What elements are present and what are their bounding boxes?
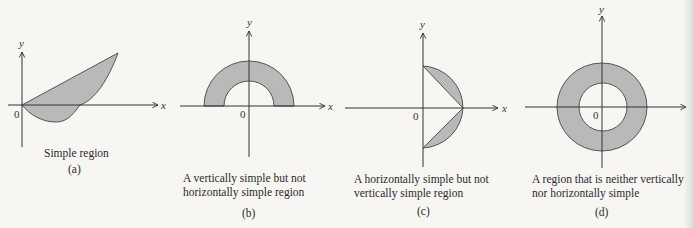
- panel-d-sublabel: (d): [595, 206, 608, 218]
- panel-d-origin-label: 0: [593, 109, 599, 121]
- panel-a-sublabel: (a): [68, 163, 81, 175]
- panel-d-caption: A region that is neither vertically nor …: [532, 172, 684, 200]
- panel-b-x-label: x: [327, 100, 333, 112]
- panel-c-caption: A horizontally simple but not vertically…: [354, 172, 489, 200]
- panel-c-lower-wedge: [423, 108, 463, 148]
- panel-c-diagram: [345, 33, 498, 167]
- panel-c-y-label: y: [419, 18, 425, 30]
- panel-c-sublabel: (c): [417, 205, 430, 217]
- panel-b-sublabel: (b): [242, 207, 255, 219]
- panel-b-caption: A vertically simple but not horizontally…: [183, 171, 306, 199]
- panel-a-diagram: [8, 52, 158, 147]
- panel-a-x-label: x: [160, 99, 166, 111]
- page-edge-shadow: [683, 0, 693, 228]
- panel-c-caption-line-1: A horizontally simple but not: [354, 172, 489, 186]
- panel-a-region: [22, 53, 118, 122]
- panel-b-caption-line-2: horizontally simple region: [183, 185, 306, 199]
- panel-c-origin-label: 0: [413, 110, 419, 122]
- panel-a-caption: Simple region: [44, 146, 109, 160]
- panel-d-caption-line-1: A region that is neither vertically: [532, 172, 684, 186]
- panel-b-origin-label: 0: [240, 108, 246, 120]
- panel-b-y-label: y: [246, 16, 252, 28]
- panel-d-caption-line-2: nor horizontally simple: [532, 186, 684, 200]
- panel-a-origin-label: 0: [14, 108, 20, 120]
- panel-c-caption-line-2: vertically simple region: [354, 186, 489, 200]
- panel-c-x-label: x: [501, 102, 507, 114]
- panel-a-caption-line-1: Simple region: [44, 146, 109, 160]
- panel-d-diagram: [525, 16, 686, 168]
- panel-c-upper-wedge: [423, 66, 463, 108]
- panel-a-y-label: y: [18, 37, 24, 49]
- panel-b-diagram: [180, 31, 325, 157]
- panel-d-y-label: y: [598, 3, 604, 15]
- panel-b-caption-line-1: A vertically simple but not: [183, 171, 306, 185]
